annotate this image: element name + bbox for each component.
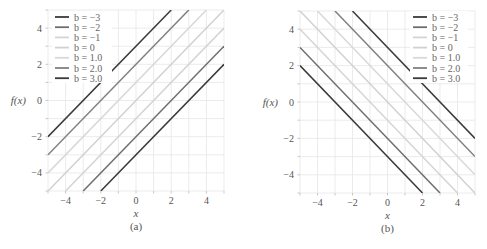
y-tick-label: 4 xyxy=(289,24,294,35)
y-axis-label: f(x) xyxy=(263,96,279,109)
x-tick-label: 0 xyxy=(385,197,390,208)
chart-panel-b: −4−2024−4−2024xf(x)(b)b = −3b = −2b = −1… xyxy=(263,11,475,235)
legend: b = −3b = −2b = −1b = 0b = 1.0b = 2.0b =… xyxy=(52,11,112,84)
x-tick-label: 2 xyxy=(420,197,425,208)
x-axis-label: x xyxy=(384,209,390,221)
series-line xyxy=(300,66,423,193)
y-tick-label: 4 xyxy=(37,23,42,34)
y-axis-label: f(x) xyxy=(11,94,27,107)
x-tick-label: −4 xyxy=(312,197,323,208)
figure: −4−2024−4−2024xf(x)(a)b = −3b = −2b = −1… xyxy=(0,0,487,249)
y-tick-label: −4 xyxy=(31,167,42,178)
legend: b = −3b = −2b = −1b = 0b = 1.0b = 2.0b =… xyxy=(410,11,468,84)
x-tick-label: −2 xyxy=(347,197,358,208)
x-axis-label: x xyxy=(133,207,139,219)
panel-caption: (a) xyxy=(130,220,143,233)
y-tick-label: 2 xyxy=(37,59,42,70)
legend-label: b = 3.0 xyxy=(432,73,460,84)
legend-label: b = 3.0 xyxy=(74,73,102,84)
x-tick-label: 4 xyxy=(204,195,209,206)
y-tick-label: 0 xyxy=(289,97,294,108)
y-tick-label: 0 xyxy=(37,95,42,106)
x-tick-label: 0 xyxy=(134,195,139,206)
y-tick-label: −2 xyxy=(283,133,294,144)
x-tick-label: −4 xyxy=(60,195,71,206)
series-line xyxy=(101,64,224,191)
y-tick-label: −2 xyxy=(31,131,42,142)
x-tick-label: 2 xyxy=(169,195,174,206)
y-tick-label: 2 xyxy=(289,60,294,71)
panel-caption: (b) xyxy=(381,222,394,235)
x-tick-label: −2 xyxy=(95,195,106,206)
chart-panel-a: −4−2024−4−2024xf(x)(a)b = −3b = −2b = −1… xyxy=(11,10,224,233)
x-tick-label: 4 xyxy=(455,197,460,208)
y-tick-label: −4 xyxy=(283,169,294,180)
